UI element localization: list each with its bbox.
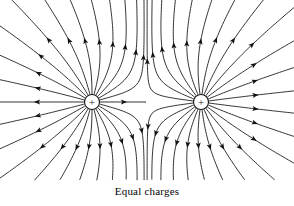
field-line	[198, 0, 214, 94]
field-line	[80, 110, 92, 180]
field-line	[41, 0, 90, 94]
field-line-diagram: ++ Equal charges	[0, 0, 294, 206]
field-line	[99, 106, 137, 180]
field-line	[0, 53, 85, 98]
figure-caption: Equal charges	[0, 185, 294, 197]
field-line	[204, 0, 268, 95]
field-line-arrowhead	[61, 143, 67, 149]
field-line	[208, 105, 294, 138]
field-line-arrowhead	[219, 143, 224, 150]
field-line	[147, 0, 193, 101]
charge-sign-label: +	[198, 97, 204, 108]
left-charge: +	[84, 94, 100, 110]
field-line-arrowhead	[250, 63, 257, 68]
field-line-arrowhead	[40, 143, 46, 149]
field-line-arrowhead	[230, 38, 236, 45]
field-line-arrowhead	[38, 54, 44, 60]
electric-field-svg: ++	[0, 0, 294, 206]
field-line	[209, 90, 294, 101]
field-line	[96, 0, 113, 95]
field-line	[202, 110, 223, 180]
field-line-arrowhead	[250, 136, 257, 141]
field-line	[187, 0, 198, 95]
field-line	[68, 0, 92, 94]
field-line	[204, 109, 244, 179]
charge-sign-label: +	[89, 97, 95, 108]
field-line	[98, 0, 127, 96]
field-line	[100, 0, 144, 100]
field-line	[99, 0, 137, 98]
field-line	[208, 66, 294, 99]
field-lines-group	[0, 0, 294, 180]
field-line	[206, 108, 274, 179]
field-line	[209, 103, 294, 114]
right-charge: +	[193, 94, 209, 110]
